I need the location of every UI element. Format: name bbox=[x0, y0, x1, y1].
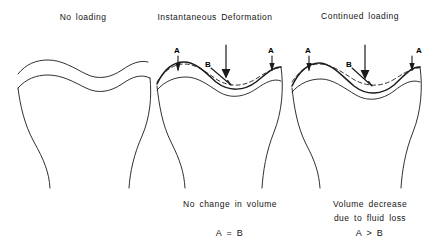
panel-continued-drawing bbox=[292, 45, 421, 188]
label-b-middle: B bbox=[205, 60, 211, 69]
panel2-load-arrow bbox=[222, 45, 231, 79]
heading-instantaneous-deformation: Instantaneous Deformation bbox=[139, 12, 291, 22]
label-a-middle-left: A bbox=[174, 46, 180, 55]
heading-continued-loading: Continued loading bbox=[296, 11, 424, 21]
heading-no-loading: No loading bbox=[28, 12, 138, 22]
panel2-bone-surface bbox=[157, 77, 281, 96]
panel3-load-arrow bbox=[361, 45, 370, 80]
relation-right-panel: A > B bbox=[300, 228, 440, 238]
label-a-right-right: A bbox=[416, 46, 422, 55]
panel3-original-outline-dashed bbox=[292, 64, 419, 85]
panel-instantaneous-drawing bbox=[157, 45, 282, 188]
panel2-a-left-marker bbox=[175, 56, 180, 72]
relation-middle-panel: A = B bbox=[150, 228, 310, 238]
panel2-left-shaft bbox=[157, 86, 185, 188]
label-b-right: B bbox=[346, 60, 352, 69]
panel1-bone-surface bbox=[18, 75, 150, 91]
panel1-right-shaft bbox=[129, 78, 151, 188]
panel1-left-shaft bbox=[18, 88, 50, 188]
label-a-right-left: A bbox=[305, 46, 311, 55]
panel3-right-shaft bbox=[401, 67, 421, 188]
panel3-left-shaft bbox=[292, 88, 320, 188]
cartilage-deformation-figure: No loading Instantaneous Deformation Con… bbox=[0, 0, 444, 248]
panel3-bone-surface bbox=[292, 79, 420, 99]
panel1-cartilage-surface bbox=[18, 60, 148, 77]
caption-right-line1: Volume decrease bbox=[300, 198, 440, 212]
caption-middle-panel: No change in volume bbox=[150, 198, 310, 212]
panel3-deformed-surface bbox=[292, 63, 420, 93]
panel-no-loading-drawing bbox=[18, 60, 151, 188]
caption-right-panel: Volume decrease due to fluid loss bbox=[300, 198, 440, 225]
panel2-right-shaft bbox=[262, 67, 282, 188]
panel3-a-left-marker bbox=[306, 56, 311, 72]
caption-middle-line1: No change in volume bbox=[150, 198, 310, 212]
label-a-middle-right: A bbox=[268, 46, 274, 55]
caption-right-line2: due to fluid loss bbox=[300, 212, 440, 226]
